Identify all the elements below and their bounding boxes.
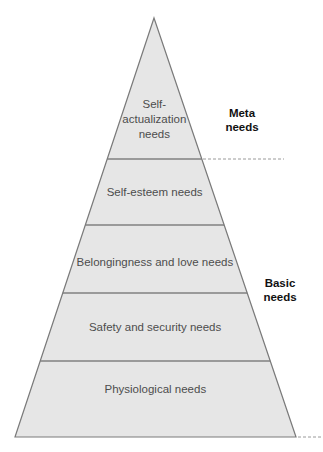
group-label-meta: Meta [229, 107, 256, 119]
level-label-belongingness: Belongingness and love needs [77, 256, 234, 268]
level-label-self-actualization: actualization [122, 113, 186, 125]
level-label-self-actualization: needs [139, 128, 171, 140]
group-label-basic: Basic [265, 277, 296, 289]
pyramid-level-physiological [15, 361, 296, 437]
level-label-self-actualization: Self- [142, 98, 166, 110]
level-label-self-esteem: Self-esteem needs [107, 186, 203, 198]
level-label-safety: Safety and security needs [89, 321, 222, 333]
pyramid-levels [15, 18, 296, 437]
level-label-physiological: Physiological needs [105, 383, 207, 395]
group-label-meta: needs [225, 121, 258, 133]
group-label-basic: needs [263, 291, 296, 303]
maslow-pyramid-diagram: Self-actualizationneedsSelf-esteem needs… [0, 0, 323, 452]
